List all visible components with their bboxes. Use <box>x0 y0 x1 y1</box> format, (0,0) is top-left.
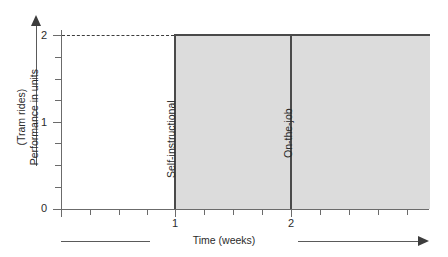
y-axis-title: (Tram rides) Performance in units <box>15 37 41 197</box>
y-tick-minor-0.5 <box>55 165 62 166</box>
y-tick-minor-1.75 <box>55 57 62 58</box>
phase-band-on-the-job <box>291 35 430 209</box>
x-tick-minor-2.75 <box>378 209 379 215</box>
x-axis-line <box>61 209 429 210</box>
x-tick-minor-0.5 <box>119 209 120 215</box>
y-tick-minor-0.75 <box>55 143 62 144</box>
x-axis-arrow-icon <box>418 236 429 246</box>
y-axis-arrow-icon <box>31 15 41 26</box>
dashed-guide-line <box>62 35 174 36</box>
x-tick-label-2: 2 <box>283 218 299 229</box>
y-tick-2 <box>53 35 62 36</box>
x-tick-label-1: 1 <box>167 218 183 229</box>
y-tick-minor-0.25 <box>55 187 62 188</box>
y-axis-title-sub: (Tram rides) <box>15 37 28 197</box>
x-tick-minor-1.25 <box>204 209 205 215</box>
x-tick-2 <box>291 209 292 217</box>
phase-label-on-the-job: On-the-job <box>283 108 294 158</box>
y-axis-title-main: Performance in units <box>28 69 40 165</box>
x-tick-minor-0.25 <box>90 209 91 215</box>
x-tick-minor-3 <box>407 209 408 215</box>
phase-label-self-instructional: Self-instructional <box>166 100 177 178</box>
x-axis-title: Time (weeks) <box>150 234 298 247</box>
x-tick-minor-1.75 <box>262 209 263 215</box>
x-tick-minor-2.25 <box>320 209 321 215</box>
x-tick-0 <box>61 209 62 217</box>
y-tick-minor-1.25 <box>55 100 62 101</box>
x-tick-minor-1.5 <box>233 209 234 215</box>
x-tick-minor-0.75 <box>147 209 148 215</box>
phase-band-self-instructional <box>174 35 291 209</box>
y-tick-1 <box>53 122 62 123</box>
y-tick-label-0: 0 <box>33 203 47 214</box>
y-tick-minor-1.5 <box>55 79 62 80</box>
performance-plateau-line <box>174 34 430 36</box>
performance-time-chart: Self-instructional On-the-job 2 1 0 1 2 … <box>0 0 448 257</box>
x-tick-1 <box>175 209 176 217</box>
x-tick-minor-2.5 <box>349 209 350 215</box>
